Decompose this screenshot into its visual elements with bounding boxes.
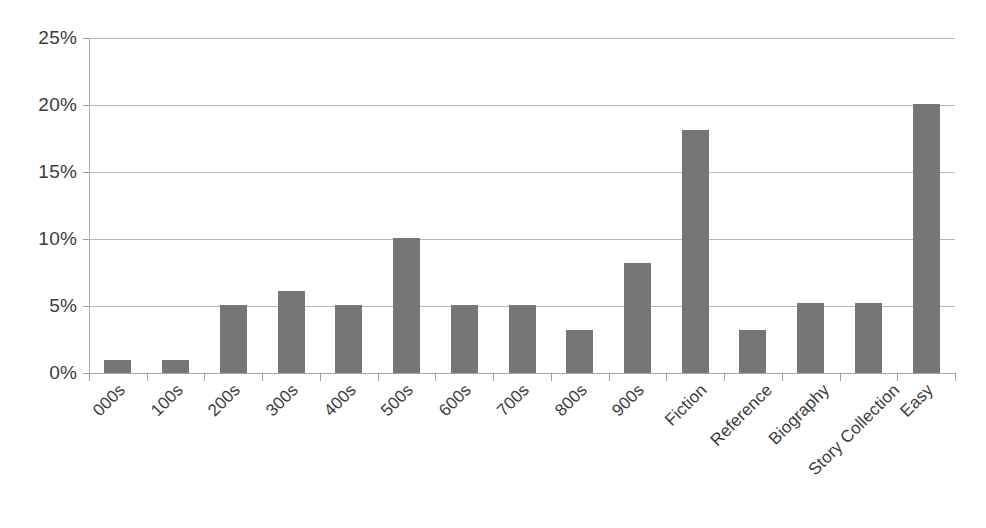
bar-easy[interactable] [913, 104, 940, 373]
y-axis-tick-label: 20% [0, 95, 77, 114]
x-axis-tick-label-200s: 200s [205, 381, 244, 420]
x-axis-tick-label-600s: 600s [436, 381, 475, 420]
y-axis-tick-label: 10% [0, 229, 77, 248]
x-axis-tick-mark [435, 373, 436, 381]
y-axis-tick-label: 5% [0, 296, 77, 315]
bar-400s[interactable] [335, 305, 362, 373]
x-axis-tick-label-700s: 700s [494, 381, 533, 420]
x-axis-tick-mark [724, 373, 725, 381]
bar-700s[interactable] [509, 305, 536, 373]
x-axis-tick-mark [493, 373, 494, 381]
x-axis-tick-label-500s: 500s [378, 381, 417, 420]
x-axis-tick-label-biography: Biography [766, 381, 833, 448]
plot-area [89, 38, 955, 373]
bar-900s[interactable] [624, 263, 651, 373]
x-axis-tick-mark [955, 373, 956, 381]
x-axis-tick-label-900s: 900s [609, 381, 648, 420]
y-axis-tick-mark [83, 172, 89, 173]
x-axis-tick-label-400s: 400s [321, 381, 360, 420]
y-axis-tick-label: 15% [0, 162, 77, 181]
bar-200s[interactable] [220, 305, 247, 373]
gridline-10pct [89, 239, 955, 240]
gridline-20pct [89, 105, 955, 106]
y-axis-tick-label: 25% [0, 28, 77, 47]
bar-fiction[interactable] [682, 130, 709, 373]
bar-reference[interactable] [739, 330, 766, 373]
x-axis-tick-label-easy: Easy [898, 381, 938, 421]
gridline-25pct [89, 38, 955, 39]
x-axis-tick-label-300s: 300s [263, 381, 302, 420]
x-axis-tick-label-000s: 000s [90, 381, 129, 420]
y-axis-tick-mark [83, 105, 89, 106]
bar-100s[interactable] [162, 360, 189, 373]
bar-300s[interactable] [278, 291, 305, 373]
gridline-15pct [89, 172, 955, 173]
x-axis-tick-mark [666, 373, 667, 381]
bar-500s[interactable] [393, 238, 420, 373]
x-axis-tick-mark [147, 373, 148, 381]
bar-biography[interactable] [797, 303, 824, 373]
y-axis-tick-mark [83, 306, 89, 307]
x-axis-tick-mark [897, 373, 898, 381]
bar-chart: 000s100s200s300s400s500s600s700s800s900s… [0, 0, 986, 528]
x-axis-tick-label-800s: 800s [552, 381, 591, 420]
x-axis-tick-mark [378, 373, 379, 381]
x-axis-tick-mark [782, 373, 783, 381]
x-axis-tick-mark [204, 373, 205, 381]
x-axis-tick-mark [262, 373, 263, 381]
x-axis-tick-mark [840, 373, 841, 381]
x-axis-tick-label-100s: 100s [147, 381, 186, 420]
bar-600s[interactable] [451, 305, 478, 373]
x-axis-tick-label-reference: Reference [707, 381, 776, 450]
bar-800s[interactable] [566, 330, 593, 373]
x-axis-tick-mark [320, 373, 321, 381]
x-axis-tick-mark [89, 373, 90, 381]
bar-000s[interactable] [104, 360, 131, 373]
y-axis-tick-label: 0% [0, 363, 77, 382]
y-axis-tick-mark [83, 38, 89, 39]
x-axis-tick-label-fiction: Fiction [661, 381, 710, 430]
x-axis-tick-mark [551, 373, 552, 381]
gridline-0pct [89, 373, 955, 374]
x-axis-tick-mark [609, 373, 610, 381]
y-axis-tick-mark [83, 239, 89, 240]
bar-story-collection[interactable] [855, 303, 882, 373]
